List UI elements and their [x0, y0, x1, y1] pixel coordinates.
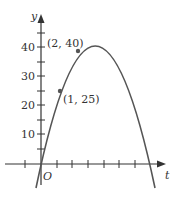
- y-axis-arrow-icon: [38, 14, 45, 23]
- y-tick-label-20: 20: [21, 99, 35, 112]
- point-1-25: [58, 89, 62, 93]
- x-axis-label: t: [165, 169, 170, 182]
- annotation-1-25: (1, 25): [63, 93, 100, 106]
- annotation-2-40: (2, 40): [47, 37, 84, 50]
- y-tick-label-30: 30: [21, 70, 35, 83]
- x-axis-arrow-icon: [157, 161, 166, 168]
- y-tick-label-10: 10: [21, 128, 35, 141]
- origin-label: O: [43, 170, 52, 183]
- y-axis-label: y: [30, 10, 38, 23]
- parabola-curve: [36, 46, 155, 188]
- parabola-chart: 40 30 20 10 y t O (2, 40) (1, 25): [0, 0, 181, 200]
- y-tick-label-40: 40: [21, 41, 35, 54]
